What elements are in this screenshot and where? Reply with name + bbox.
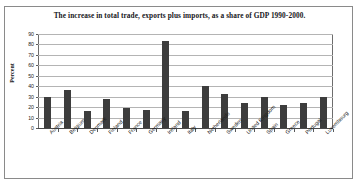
bar[interactable] (143, 110, 150, 128)
y-tick-mark (36, 107, 38, 108)
y-tick-label: 70 (10, 52, 34, 58)
bar-slot (58, 34, 78, 128)
y-tick-label: 20 (10, 104, 34, 110)
plot-area (38, 34, 333, 128)
bar-slot (313, 34, 333, 128)
y-tick-mark (36, 97, 38, 98)
bar[interactable] (202, 86, 209, 128)
bar-slot (176, 34, 196, 128)
bar-slot (235, 34, 255, 128)
bar[interactable] (241, 103, 248, 128)
y-tick-mark (36, 118, 38, 119)
bar-slot (274, 34, 294, 128)
bar-slot (294, 34, 314, 128)
bar[interactable] (44, 97, 51, 128)
y-tick-mark (36, 55, 38, 56)
y-tick-label: 50 (10, 73, 34, 79)
y-tick-mark (36, 128, 38, 129)
y-tick-mark (36, 76, 38, 77)
y-tick-mark (36, 86, 38, 87)
y-tick-label: 0 (10, 125, 34, 131)
y-tick-mark (36, 65, 38, 66)
bar[interactable] (123, 108, 130, 128)
bar-slot (195, 34, 215, 128)
y-tick-mark (36, 44, 38, 45)
bar-slot (156, 34, 176, 128)
x-axis-tick-labels: AustriaBelgiumDenmarkFinlandFranceGerman… (38, 131, 333, 183)
y-tick-label: 40 (10, 83, 34, 89)
bar[interactable] (280, 105, 287, 128)
y-tick-label: 10 (10, 115, 34, 121)
bar-slot (117, 34, 137, 128)
bar[interactable] (300, 103, 307, 128)
bar-slot (38, 34, 58, 128)
chart-title: The increase in total trade, exports plu… (0, 11, 359, 20)
y-tick-label: 80 (10, 41, 34, 47)
y-tick-label: 90 (10, 31, 34, 37)
bar[interactable] (64, 90, 71, 128)
bar[interactable] (182, 111, 189, 128)
y-tick-mark (36, 34, 38, 35)
bar-slot (136, 34, 156, 128)
bar[interactable] (162, 41, 169, 128)
chart-page: The increase in total trade, exports plu… (0, 0, 359, 185)
bar[interactable] (103, 99, 110, 128)
bar-series (38, 34, 333, 128)
bar-slot (97, 34, 117, 128)
y-tick-label: 60 (10, 62, 34, 68)
bar-slot (77, 34, 97, 128)
y-tick-label: 30 (10, 94, 34, 100)
bar[interactable] (320, 97, 327, 128)
